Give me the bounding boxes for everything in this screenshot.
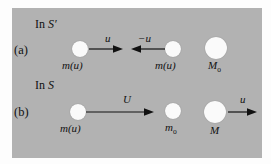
row-b-velocity-U-right-arrow [86, 108, 154, 116]
frame-label-b-symbol: S [48, 78, 54, 92]
row-a-velocity-minus-u-left-arrow [131, 45, 165, 53]
row-b-velocity-u-right-label: u [240, 93, 246, 105]
row-a-right-particle [165, 41, 181, 57]
figure-panel: In S′ (a) m(u) u −u m(u) Mo In S [12, 8, 262, 158]
frame-label-a-prefix: In [35, 17, 48, 31]
row-a-composite-mass-symbol: M [208, 59, 217, 71]
row-a-velocity-u-right-arrow [89, 45, 123, 53]
row-b-velocity-u-right-arrow [228, 108, 257, 116]
row-b-left-particle-label: m(u) [60, 122, 81, 134]
frame-label-a: In S′ [35, 17, 57, 32]
row-a-right-particle-label: m(u) [155, 59, 176, 71]
row-b-rest-mass-particle-label: mo [165, 121, 177, 136]
frame-label-b-prefix: In [35, 78, 48, 92]
row-a-composite-mass [205, 37, 227, 59]
row-a-velocity-u-right-label: u [105, 32, 111, 44]
row-a-velocity-minus-u-left-label: −u [138, 32, 151, 44]
frame-label-a-symbol: S′ [48, 17, 57, 31]
row-label-a: (a) [14, 43, 28, 58]
row-a-left-particle [72, 41, 88, 57]
row-b-rest-mass-subscript: o [173, 127, 177, 136]
row-a-composite-mass-subscript: o [217, 65, 221, 74]
row-label-b: (b) [14, 105, 29, 120]
physics-figure: In S′ (a) m(u) u −u m(u) Mo In S [0, 0, 271, 164]
row-b-rest-mass-particle [165, 103, 181, 119]
row-b-composite-mass [204, 101, 226, 123]
row-b-left-particle [70, 104, 86, 120]
frame-label-b: In S [35, 78, 54, 93]
row-a-composite-mass-label: Mo [208, 59, 221, 74]
row-a-left-particle-label: m(u) [62, 59, 83, 71]
row-b-velocity-U-right-label: U [123, 93, 131, 105]
row-b-composite-mass-label: M [210, 124, 219, 136]
row-b-rest-mass-symbol: m [165, 121, 173, 133]
